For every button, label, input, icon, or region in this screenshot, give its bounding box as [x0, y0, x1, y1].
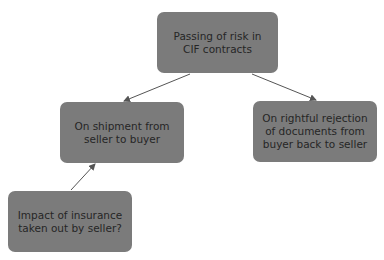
node-text-line: taken out by seller?	[18, 222, 122, 235]
node-text-line: On shipment from	[74, 120, 169, 133]
node-text-line: of documents from	[262, 125, 367, 138]
node-impact-of-insurance: Impact of insurance taken out by seller?	[8, 191, 132, 252]
node-passing-of-risk: Passing of risk in CIF contracts	[157, 12, 278, 73]
node-text-line: Impact of insurance	[18, 209, 122, 222]
node-on-shipment: On shipment from seller to buyer	[60, 102, 184, 163]
edge-root-to-rejection	[252, 74, 316, 100]
node-on-rightful-rejection: On rightful rejection of documents from …	[253, 101, 377, 162]
node-text-line: buyer back to seller	[262, 138, 367, 151]
node-text-line: seller to buyer	[74, 133, 169, 146]
edge-insurance-to-shipment	[71, 164, 95, 190]
node-text-line: CIF contracts	[174, 43, 262, 56]
node-text-line: On rightful rejection	[262, 112, 367, 125]
node-text-line: Passing of risk in	[174, 30, 262, 43]
edge-root-to-shipment	[124, 74, 190, 101]
